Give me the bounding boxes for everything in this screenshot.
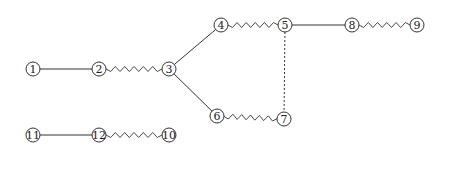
node-label: 6 <box>214 110 221 123</box>
node-8: 8 <box>345 18 359 32</box>
node-label: 8 <box>349 19 356 32</box>
edge-8-9-spring <box>359 23 410 28</box>
edge-5-7-dashed <box>284 32 285 112</box>
node-label: 7 <box>281 113 288 126</box>
node-11: 11 <box>26 128 40 142</box>
node-6: 6 <box>210 109 224 123</box>
node-label: 4 <box>218 19 225 32</box>
node-4: 4 <box>214 18 228 32</box>
node-label: 9 <box>414 19 421 32</box>
node-1: 1 <box>26 62 40 76</box>
node-3: 3 <box>162 62 176 76</box>
edges-layer <box>40 23 410 138</box>
node-label: 11 <box>26 129 40 142</box>
edge-6-7-spring <box>224 114 277 121</box>
graph-diagram: 123456789101112 <box>0 0 449 171</box>
edge-12-10-spring <box>106 133 162 138</box>
node-9: 9 <box>410 18 424 32</box>
node-label: 2 <box>96 63 103 76</box>
edge-3-4-solid <box>174 30 215 65</box>
node-label: 3 <box>166 63 173 76</box>
node-label: 5 <box>282 19 289 32</box>
node-2: 2 <box>92 62 106 76</box>
node-12: 12 <box>92 128 106 142</box>
node-10: 10 <box>162 128 176 142</box>
node-5: 5 <box>278 18 292 32</box>
node-label: 1 <box>30 63 37 76</box>
edge-4-5-spring <box>228 23 278 28</box>
node-7: 7 <box>277 112 291 126</box>
edge-2-3-spring <box>106 67 162 72</box>
edge-3-6-solid <box>174 74 212 111</box>
nodes-layer: 123456789101112 <box>26 18 424 142</box>
node-label: 12 <box>92 129 106 142</box>
node-label: 10 <box>162 129 176 142</box>
